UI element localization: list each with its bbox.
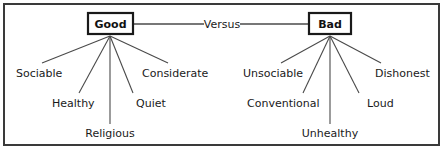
node-bad[interactable]: Bad [309, 13, 351, 34]
node-bad-label: Bad [318, 18, 342, 31]
trait-label-considerate: Considerate [142, 67, 208, 80]
bad-trait-labels: Unsociable Conventional Unhealthy Loud D… [243, 67, 430, 140]
trait-label-quiet: Quiet [136, 97, 166, 110]
trait-label-conventional: Conventional [247, 97, 320, 110]
node-good[interactable]: Good [88, 13, 133, 34]
connector-bad-dishonest [330, 36, 381, 63]
diagram-svg: Versus Good Bad Sociable Healthy [0, 0, 444, 156]
versus-label: Versus [204, 18, 241, 31]
trait-label-unsociable: Unsociable [243, 67, 303, 80]
versus-connector-group: Versus [134, 18, 308, 31]
node-good-label: Good [94, 18, 126, 31]
trait-label-religious: Religious [85, 127, 135, 140]
connector-good-sociable [42, 36, 110, 63]
trait-label-unhealthy: Unhealthy [302, 127, 359, 140]
trait-label-sociable: Sociable [16, 67, 63, 80]
connector-bad-conventional [303, 36, 330, 93]
connector-bad-loud [330, 36, 359, 93]
connector-good-healthy [79, 36, 110, 93]
good-trait-labels: Sociable Healthy Religious Quiet Conside… [16, 67, 208, 140]
trait-label-healthy: Healthy [52, 97, 95, 110]
diagram-canvas: Versus Good Bad Sociable Healthy [0, 0, 444, 156]
good-connector-group [42, 36, 168, 124]
bad-connector-group [281, 36, 381, 124]
trait-label-dishonest: Dishonest [375, 67, 430, 80]
trait-label-loud: Loud [367, 97, 394, 110]
connector-bad-unsociable [281, 36, 330, 63]
